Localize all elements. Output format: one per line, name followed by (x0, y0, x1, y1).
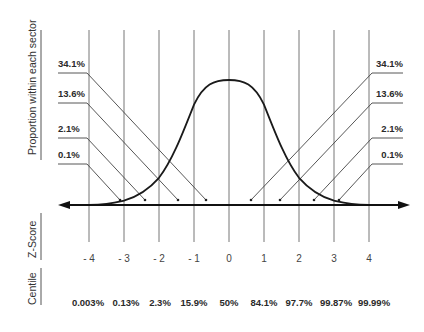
right-pct-0: 0.1% (381, 149, 403, 160)
z-score-ticks: - 4 - 3 - 2 - 1 0 1 2 3 4 (83, 253, 372, 264)
svg-text:0.003%: 0.003% (72, 297, 105, 308)
right-pct-2: 2.1% (381, 123, 403, 134)
svg-text:2.3%: 2.3% (149, 297, 171, 308)
y-axis-label: Proportion within each sector (26, 19, 38, 155)
sd-grid-lines (89, 30, 369, 242)
centile-label: Centile (26, 272, 38, 305)
z-score-label: Z-Score (26, 221, 38, 259)
left-pct-13: 13.6% (58, 88, 85, 99)
svg-text:15.9%: 15.9% (181, 297, 208, 308)
svg-text:84.1%: 84.1% (251, 297, 278, 308)
svg-text:99.99%: 99.99% (358, 297, 391, 308)
left-pct-0: 0.1% (58, 149, 80, 160)
left-pct-34: 34.1% (58, 58, 85, 69)
normal-distribution-diagram: Proportion within each sector Z-Score Ce… (0, 0, 424, 332)
left-pct-2: 2.1% (58, 123, 80, 134)
arrow-right-icon (398, 201, 410, 209)
svg-text:4: 4 (366, 253, 372, 264)
svg-text:99.87%: 99.87% (320, 297, 353, 308)
svg-text:0.13%: 0.13% (113, 297, 140, 308)
svg-text:- 2: - 2 (153, 253, 165, 264)
svg-text:50%: 50% (219, 297, 239, 308)
svg-text:0: 0 (226, 253, 232, 264)
svg-text:- 3: - 3 (118, 253, 130, 264)
svg-text:2: 2 (296, 253, 302, 264)
right-pct-34: 34.1% (376, 58, 403, 69)
svg-text:1: 1 (261, 253, 267, 264)
svg-text:3: 3 (331, 253, 337, 264)
right-pct-13: 13.6% (376, 88, 403, 99)
arrow-left-icon (58, 201, 70, 209)
centile-values: 0.003% 0.13% 2.3% 15.9% 50% 84.1% 97.7% … (72, 297, 391, 308)
sector-dots (119, 199, 341, 202)
svg-text:97.7%: 97.7% (286, 297, 313, 308)
svg-text:- 4: - 4 (83, 253, 95, 264)
svg-text:- 1: - 1 (188, 253, 200, 264)
